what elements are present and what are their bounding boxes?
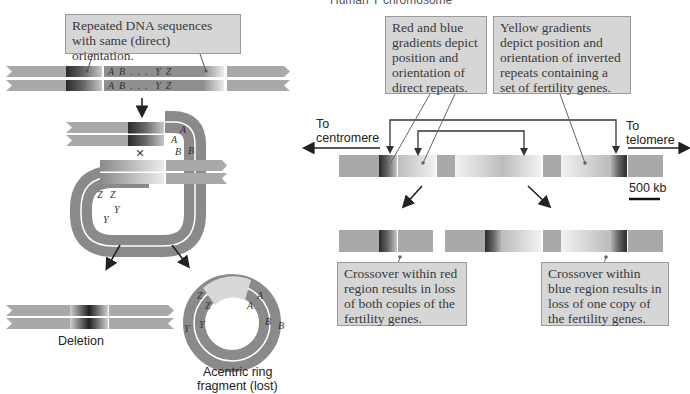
to-centromere-line2: centromere: [316, 131, 379, 145]
deletion-product: [6, 305, 174, 329]
deletion-label: Deletion: [58, 334, 104, 348]
loop-letter-z-outer: Z: [97, 189, 103, 200]
callout-blue-crossover: Crossover within blue region results in …: [541, 262, 669, 326]
crossover-mark: ×: [136, 145, 144, 161]
ring-letter-a-outer: A: [257, 290, 263, 301]
loop-letter-y-outer: Y: [103, 214, 109, 225]
ring-letter-a-inner: A: [247, 300, 253, 311]
ring-letter-b-outer: B: [278, 320, 284, 331]
to-telomere-line1: To: [626, 119, 639, 133]
seq-letters-top: A B . . . Y Z: [108, 66, 171, 77]
callout-red-crossover: Crossover within red region results in l…: [337, 262, 467, 326]
ring-letter-y-outer: Y: [184, 323, 190, 334]
ring-letter-b-inner: B: [265, 316, 271, 327]
to-centromere-line1: To: [316, 117, 329, 131]
to-telomere-line2: telomere: [626, 133, 675, 147]
y-chromosome-bar: [339, 155, 663, 177]
ring-letter-y-inner: Y: [199, 319, 205, 330]
loop-letter-a-outer: A: [180, 124, 186, 135]
loop-letter-y-inner: Y: [114, 204, 120, 215]
ring-letter-z-outer: Z: [197, 290, 203, 301]
callout-red-blue-gradients: Red and blue gradients depict position a…: [385, 16, 487, 94]
ring-label-line1: Acentric ring: [203, 365, 272, 379]
seq-letters-bottom: A B . . . Y Z: [108, 80, 171, 91]
callout-yellow-gradients: Yellow gradients depict position and ori…: [493, 16, 631, 94]
ring-label-line2: fragment (lost): [197, 379, 278, 393]
loop-letter-z-inner: Z: [110, 189, 116, 200]
scale-bar-label: 500 kb: [629, 181, 667, 195]
loop-letter-a-inner: A: [171, 134, 177, 145]
red-crossover-product: [339, 230, 433, 252]
loop-letter-b-outer: B: [188, 145, 194, 156]
loop-letter-b-inner: B: [175, 146, 181, 157]
callout-direct-orientation: Repeated DNA sequences with same (direct…: [65, 14, 241, 54]
blue-crossover-product: [445, 230, 663, 252]
ring-letter-z-inner: Z: [205, 300, 211, 311]
loop-structure: [66, 122, 227, 246]
